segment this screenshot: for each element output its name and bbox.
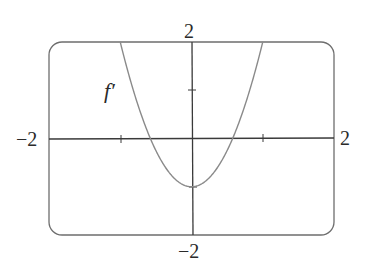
y-max-label: 2	[184, 20, 194, 42]
y-min-label: −2	[178, 240, 199, 262]
curve-label: f′	[104, 78, 116, 103]
chart-canvas: 2 −2 −2 2 f′	[0, 0, 365, 272]
x-min-label: −2	[16, 128, 37, 150]
x-max-label: 2	[340, 127, 350, 149]
y-axis	[192, 42, 193, 235]
x-axis	[49, 138, 334, 139]
